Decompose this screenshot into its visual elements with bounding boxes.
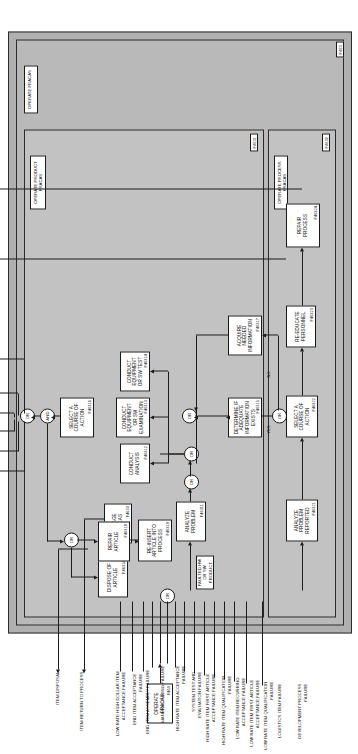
input-line-6 (167, 601, 168, 663)
box-analyze-problem-reported: ANALYZE PROBLEM REPORTED F46321 (286, 499, 318, 541)
box-analyze-problem: ANALYZE PROBLEM F46311 (176, 501, 206, 541)
box-reinsert-article: RE-INSERT ARTICLE INTO PROCESS F46319 (138, 519, 172, 561)
input-line-15 (262, 601, 263, 685)
edge-analyze-to-select-proc (302, 441, 303, 499)
box-select-course-of-action-product: SELECT A COURSE OF ACTION F46316 (60, 397, 94, 437)
input-line-1 (120, 601, 121, 671)
input-line-3 (143, 601, 144, 671)
input-label-1: ITEM RETURN TO PROCESS (74, 671, 85, 743)
edge-select-to-reeducate-arrow (300, 347, 304, 351)
input-label-0: ITEM DISPOSAL (50, 671, 61, 743)
input-line-9 (194, 601, 195, 673)
input-line-2 (132, 601, 133, 671)
box-acquire-needed-information: ACQUIRE NEEDED INFORMATION F46317 (228, 315, 262, 355)
out-line-5 (0, 358, 24, 359)
edge-merge-to-branch-arrow (188, 460, 192, 464)
out-bus-2 (14, 419, 15, 431)
input-line-11 (214, 601, 215, 677)
edge-select-to-reeducate (302, 351, 303, 395)
edge-misunderstanding-out (0, 188, 302, 189)
input-line-4 (152, 601, 153, 667)
and-left-bus (47, 423, 48, 541)
out-bus-4 (18, 393, 19, 415)
box-conduct-analysis: CONDUCT ANALYSIS F46312 (120, 443, 150, 483)
out-line-4 (0, 392, 18, 393)
edge-acquire-to-or (196, 335, 197, 410)
or-article-left-drop (71, 576, 95, 577)
branch-to-test (152, 370, 168, 371)
flow-tag-no: NO (266, 371, 271, 377)
out-line-1 (0, 450, 18, 451)
input-line-10 (204, 601, 205, 675)
input-label-2: LOW RATE HIGH DOLLAR ITEM ACCEPTANCE FAI… (110, 671, 126, 754)
edge-no-riser (264, 334, 278, 335)
box-determine-adequate-information: DETERMINE IF ADEQUATE INFORMATION EXISTS… (228, 397, 262, 437)
out-bus-1 (18, 421, 19, 451)
input-line-14 (246, 601, 247, 683)
edge-select-to-and-arrow (51, 415, 55, 419)
band-label-operate-fracas: OPERATE FRACAS (24, 65, 38, 113)
box-conduct-equipment-examination: CONDUCT EQUIPMENT OR SW EXAMINATION F463… (116, 397, 150, 437)
out-line-2 (0, 430, 14, 431)
box-dispose-of-article: DISPOSE OF ARTICLE F4631A (98, 557, 128, 597)
input-line-5 (160, 601, 161, 663)
branch-to-analysis-arrow (150, 462, 154, 466)
edge-and-to-or-arrow (31, 415, 35, 419)
edge-no-arrow (262, 334, 266, 338)
input-label-8: HIGH RATE ITEM FIRST ARTICLE ACCEPTANCE … (200, 673, 216, 754)
edge-reeducate-to-repair-arrow (300, 247, 304, 251)
input-label-13: LOGISTICS ITEM FAILURE (272, 683, 283, 743)
edge-process-in (302, 545, 303, 590)
box-conduct-equipment-test: CONDUCT EQUIPMENT OR SW TEST F46314 (120, 351, 150, 391)
gate-analysis-merge-or: OR (184, 474, 199, 489)
band-id-outer: F463 (336, 41, 344, 57)
and-left-drop (47, 540, 61, 541)
input-line-12 (224, 601, 225, 679)
edge-acquire-arrow (194, 407, 198, 411)
branch-gate-stem (168, 454, 184, 455)
input-line-8 (184, 601, 185, 671)
or-article-down (77, 540, 95, 541)
input-label-6: HIGH RATE ITEM ACCEPTANCE FAILURE (170, 665, 186, 735)
box-select-course-of-action-process: SELECT A COURSE OF ACTION F46322 (286, 395, 318, 437)
edge-no-path (278, 335, 279, 410)
edge-determine-to-or (198, 416, 228, 417)
band-label-operate-process-fracas: OPERATE PROCESS FRACAS (274, 155, 288, 209)
input-label-5: MANUFACTURING FAILURE (155, 665, 166, 725)
band-id-operate-process-fracas: F4632 (322, 133, 330, 151)
band-id-operate-product-fracas: F4631 (250, 133, 258, 151)
box-re-educate-personnel: RE-EDUCATE PERSONNEL F46323 (286, 305, 316, 347)
edge-reeducate-to-repair (302, 251, 303, 305)
edge-determine-down (262, 416, 272, 417)
out-bus-3 (14, 413, 15, 417)
box-repair-process: REPAIR PROCESS F46324 (286, 203, 320, 247)
input-label-4: END ITEM ASSEMBLY FAILURE (140, 669, 151, 739)
branch-to-analysis (152, 462, 168, 463)
out-line-3 (0, 412, 14, 413)
branch-to-exam-arrow (150, 416, 154, 420)
out-line-0 (0, 470, 24, 471)
band-label-operate-product-fracas: OPERATE PRODUCT FRACAS (30, 155, 46, 209)
item-return-line (84, 519, 85, 669)
input-label-14: DEVELOPMENT PROCESS FAILURE (292, 683, 308, 754)
gate-adequate-info-or: OR (272, 408, 287, 423)
branch-spread (168, 371, 169, 463)
box-repair-article: REPAIR ARTICLE F46318 (98, 521, 130, 561)
edge-determine-down-arrow (226, 415, 230, 419)
edge-analyze-to-merge-arrow (188, 488, 192, 492)
out-bus-5 (24, 359, 25, 413)
branch-to-exam (152, 416, 168, 417)
label-faulted-product: FAULTED HW OR SW PRODUCT (196, 555, 214, 589)
edge-process-in-arrow (300, 541, 304, 545)
input-line-13 (234, 601, 235, 681)
edge-analyze-to-select-proc-arrow (300, 437, 304, 441)
input-line-7 (175, 601, 176, 667)
flow-tag-yes: YES (266, 425, 271, 433)
out-bus-0 (24, 421, 25, 471)
or-article-left (71, 547, 72, 577)
item-disposal-line (58, 549, 59, 669)
branch-to-test-arrow (150, 370, 154, 374)
edge-repair-process-out (0, 258, 286, 259)
